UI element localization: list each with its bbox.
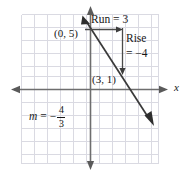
- coordinate-plane-svg: [0, 0, 187, 171]
- slope-diagram-figure: Run = 3 Rise = −4 (0, 5) (3, 1) x m = − …: [0, 0, 187, 171]
- y-axis-bottom-arrow-icon: [87, 161, 94, 170]
- slope-fraction: 4 3: [57, 105, 65, 129]
- point-label-y-intercept: (0, 5): [54, 28, 78, 39]
- rise-annotation-arrow: [119, 28, 125, 75]
- slope-numerator: 4: [58, 105, 65, 117]
- x-axis-left-arrow-icon: [11, 86, 20, 93]
- slope-equation: m = − 4 3: [29, 105, 65, 129]
- line-upper-arrow-icon: [81, 16, 90, 25]
- point-label-second: (3, 1): [92, 74, 116, 85]
- rise-value-label: = −4: [126, 48, 148, 60]
- x-axis-right-arrow-icon: [159, 86, 168, 93]
- x-axis-label: x: [174, 82, 179, 93]
- rise-label: Rise: [126, 33, 146, 45]
- slope-variable: m: [29, 111, 37, 123]
- slope-minus-sign: −: [50, 111, 57, 123]
- run-label: Run = 3: [91, 14, 128, 26]
- slope-equals-sign: =: [40, 111, 47, 123]
- slope-denominator: 3: [58, 118, 65, 130]
